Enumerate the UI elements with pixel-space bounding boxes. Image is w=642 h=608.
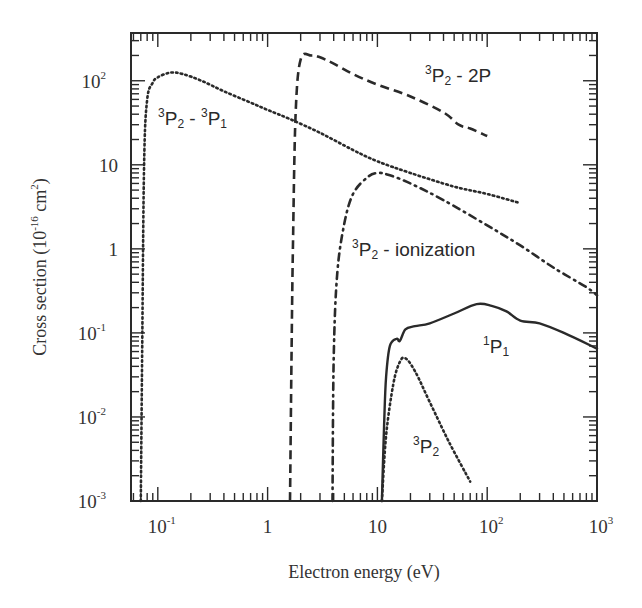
y-tick-label: 10-1 <box>78 321 106 344</box>
curve-label: 3P2 - ionization <box>352 237 475 262</box>
x-tick-label: 102 <box>479 514 504 537</box>
axis-ticks <box>131 33 597 501</box>
y-axis-title: Cross section (10-16 cm2) <box>28 178 51 356</box>
curve-3p2-ionization <box>333 173 598 501</box>
x-tick-label: 10-1 <box>148 514 176 537</box>
x-tick-label: 1 <box>263 516 273 537</box>
y-tick-label: 10-2 <box>78 405 106 428</box>
plot-frame <box>131 33 597 501</box>
y-tick-label: 10-3 <box>78 489 107 512</box>
curve-3p2-2p <box>290 54 487 501</box>
curve-label: 3P2 - 2P <box>425 63 491 88</box>
cross-section-chart: 10-111010210310-310-210-1110102 3P2 - 3P… <box>0 0 642 608</box>
x-axis-title: Electron energy (eV) <box>288 562 440 583</box>
y-tick-label: 10 <box>99 155 118 176</box>
y-tick-label: 1 <box>109 239 119 260</box>
curve-3p2-3p1 <box>141 72 521 501</box>
y-tick-label: 102 <box>82 69 107 92</box>
x-tick-label: 10 <box>368 516 387 537</box>
curve-3p2 <box>382 358 470 501</box>
axis-tick-labels: 10-111010210310-310-210-1110102 <box>78 69 614 537</box>
curve-label: 3P2 <box>413 434 439 459</box>
curve-label: 3P2 - 3P1 <box>158 106 227 131</box>
curve-label: 1P1 <box>483 334 509 359</box>
x-tick-label: 103 <box>589 514 614 537</box>
